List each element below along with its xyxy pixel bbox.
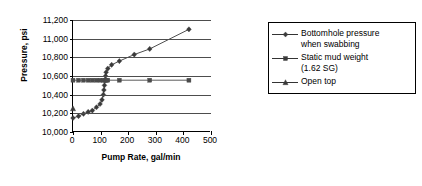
- data-point-square: [106, 78, 110, 82]
- y-tick-label: 11,000: [24, 35, 68, 44]
- legend-item[interactable]: Static mud weight (1.62 SG): [272, 52, 411, 73]
- gridline: [73, 113, 211, 114]
- data-point-square: [77, 78, 81, 82]
- y-tick-label: 10,800: [24, 53, 68, 62]
- series-group: [71, 78, 191, 82]
- data-point-square: [94, 78, 98, 82]
- data-point-square: [104, 78, 108, 82]
- data-point-diamond: [98, 101, 103, 106]
- legend-marker-square-icon: [272, 53, 298, 64]
- data-point-diamond: [147, 46, 152, 51]
- gridline: [73, 39, 211, 40]
- data-point-diamond: [187, 27, 192, 32]
- y-tick-label: 10,600: [24, 72, 68, 81]
- data-point-diamond: [105, 66, 110, 71]
- legend-label: Static mud weight (1.62 SG): [301, 52, 368, 73]
- data-point-square: [284, 57, 288, 61]
- y-tick-mark: [70, 57, 73, 58]
- legend-item[interactable]: Bottomhole pressure when swabbing: [272, 28, 411, 49]
- legend-key-marker: [281, 30, 290, 39]
- data-point-diamond: [109, 62, 114, 67]
- y-tick-mark: [70, 76, 73, 77]
- x-axis-title: Pump Rate, gal/min: [72, 152, 210, 162]
- gridline: [73, 76, 211, 77]
- y-tick-label: 10,400: [24, 91, 68, 100]
- data-point-diamond: [100, 97, 105, 102]
- data-point-square: [103, 78, 107, 82]
- y-tick-mark: [70, 113, 73, 114]
- y-axis-tick-labels: 10,00010,20010,40010,60010,80011,00011,2…: [22, 0, 68, 186]
- gridline: [73, 57, 211, 58]
- data-point-square: [187, 78, 191, 82]
- data-point-square: [98, 78, 102, 82]
- legend-marker-diamond-icon: [272, 29, 298, 40]
- gridline: [73, 20, 211, 21]
- data-point-triangle: [283, 80, 288, 85]
- data-point-diamond: [103, 78, 108, 83]
- series-group: [71, 27, 192, 121]
- legend-key-marker: [281, 54, 290, 63]
- data-point-diamond: [117, 58, 122, 63]
- y-tick-label: 11,200: [24, 16, 68, 25]
- y-tick-mark: [70, 95, 73, 96]
- data-point-square: [90, 78, 94, 82]
- data-point-diamond: [94, 105, 99, 110]
- gridline: [73, 95, 211, 96]
- data-point-diamond: [71, 115, 76, 120]
- series-group: [70, 106, 75, 111]
- x-tick-label: 500: [190, 136, 230, 145]
- series-line: [73, 29, 189, 118]
- data-point-diamond: [102, 83, 107, 88]
- legend-marker-triangle-icon: [272, 77, 298, 88]
- legend-label: Open top: [301, 76, 336, 87]
- chart-figure: Pressure, psi 10,00010,20010,40010,60010…: [0, 0, 422, 186]
- data-point-square: [81, 78, 85, 82]
- data-point-square: [86, 78, 90, 82]
- legend-item[interactable]: Open top: [272, 76, 411, 88]
- data-point-square: [148, 78, 152, 82]
- data-point-square: [101, 78, 105, 82]
- data-point-square: [117, 78, 121, 82]
- y-tick-mark: [70, 39, 73, 40]
- data-point-diamond: [283, 32, 288, 37]
- data-point-triangle: [70, 106, 75, 111]
- data-point-diamond: [102, 87, 107, 92]
- chart-legend: Bottomhole pressure when swabbingStatic …: [268, 22, 416, 94]
- data-point-diamond: [104, 70, 109, 75]
- y-tick-mark: [70, 20, 73, 21]
- legend-key-marker: [281, 78, 290, 87]
- data-point-square: [71, 78, 75, 82]
- legend-label: Bottomhole pressure when swabbing: [301, 28, 379, 49]
- y-tick-label: 10,200: [24, 109, 68, 118]
- plot-area: [72, 20, 210, 132]
